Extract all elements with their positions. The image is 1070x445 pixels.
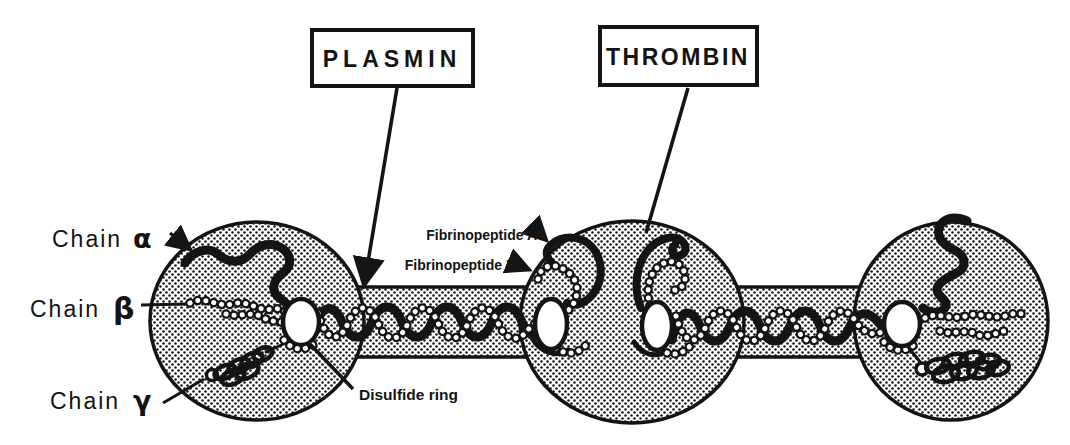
chain-alpha-word: Chain — [52, 226, 122, 252]
plasmin-pointer-line — [364, 88, 397, 286]
chain-alpha-pointer-line — [170, 233, 191, 250]
diagram-canvas: PLASMIN THROMBIN Chain α Chain β Chain γ… — [0, 0, 1070, 445]
fibrinogen-diagram: PLASMIN THROMBIN Chain α Chain β Chain γ… — [0, 0, 1070, 445]
thrombin-pointer-line — [646, 88, 688, 233]
disulfide-ring-3 — [642, 302, 672, 350]
chain-labels: Chain α Chain β Chain γ — [30, 223, 152, 416]
plasmin-label: PLASMIN — [323, 46, 462, 72]
disulfide-ring-4 — [884, 302, 920, 346]
disulfide-ring-2 — [535, 299, 567, 349]
plasmin-label-box: PLASMIN — [312, 30, 473, 86]
chain-beta-word: Chain — [30, 296, 100, 322]
fibrinopeptide-b-label: Fibrinopeptide B — [405, 257, 516, 273]
disulfide-ring-label: Disulfide ring — [359, 386, 458, 403]
fibrinopeptide-a-label: Fibrinopeptide A — [426, 227, 537, 243]
thrombin-label: THROMBIN — [606, 44, 750, 70]
chain-gamma-word: Chain — [50, 388, 120, 414]
chain-alpha-symbol: α — [133, 223, 152, 254]
chain-gamma-symbol: γ — [133, 385, 151, 416]
disulfide-ring-1 — [283, 299, 319, 345]
chain-beta-pointer-line — [141, 304, 186, 305]
fibrinopeptide-a-pointer-line — [539, 233, 547, 241]
thrombin-label-box: THROMBIN — [600, 27, 757, 85]
chain-beta-symbol: β — [113, 291, 134, 326]
fibrinopeptide-b-pointer-line — [518, 265, 530, 270]
